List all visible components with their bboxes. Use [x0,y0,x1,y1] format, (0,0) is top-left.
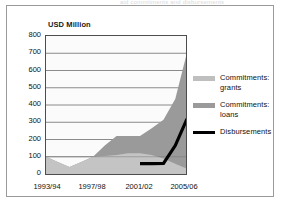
x-tick-1997-98: 1997/98 [78,182,105,191]
y-tick-500: 500 [15,83,41,91]
chart-figure-frame: USD Million 800 700 600 500 400 300 200 … [6,5,274,197]
y-tick-0: 0 [15,169,41,177]
plot-area [45,35,187,175]
legend-label-commitments-loans: Commitments: loans [220,100,277,119]
x-tick-2001-02: 2001/02 [125,182,152,191]
chart-legend: Commitments: grants Commitments: loans D… [193,73,277,145]
y-tick-300: 300 [15,117,41,125]
x-tick-2005-06: 2005/06 [170,182,197,191]
legend-swatch-grants-icon [193,76,215,81]
y-tick-600: 600 [15,66,41,74]
y-tick-200: 200 [15,135,41,143]
legend-label-disbursements: Disbursements [220,127,271,137]
y-axis: 800 700 600 500 400 300 200 100 0 [13,35,41,173]
legend-item-commitments-loans[interactable]: Commitments: loans [193,100,277,119]
x-tick-1993-94: 1993/94 [33,182,60,191]
y-tick-100: 100 [15,152,41,160]
y-tick-400: 400 [15,100,41,108]
x-axis: 1993/94 1997/98 2001/02 2005/06 [45,182,186,194]
y-tick-800: 800 [15,31,41,39]
y-tick-700: 700 [15,48,41,56]
legend-swatch-disbursements-icon [193,131,215,134]
chart-title: USD Million [48,20,91,29]
legend-swatch-loans-icon [193,103,215,108]
legend-item-disbursements[interactable]: Disbursements [193,127,277,137]
chart-plot-svg [46,36,187,174]
legend-item-commitments-grants[interactable]: Commitments: grants [193,73,277,92]
legend-label-commitments-grants: Commitments: grants [220,73,277,92]
